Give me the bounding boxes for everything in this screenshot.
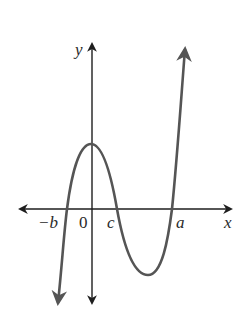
x-axis-label: x	[223, 213, 232, 232]
cubic-graph: y x −b 0 c a	[0, 0, 251, 327]
cubic-curve	[58, 49, 185, 303]
y-axis-label: y	[73, 40, 83, 59]
tick-label-origin: 0	[79, 213, 88, 232]
tick-label-a: a	[176, 213, 185, 232]
tick-label-c: c	[107, 213, 115, 232]
tick-label-neg-b: −b	[38, 213, 58, 232]
